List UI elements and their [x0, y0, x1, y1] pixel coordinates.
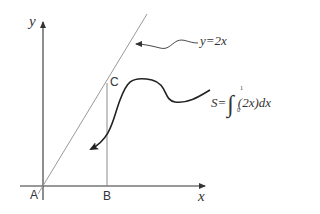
integral-integrand: (2x)dx — [238, 95, 271, 110]
point-b-label: B — [103, 190, 111, 202]
line-y-equals-2x — [38, 14, 147, 194]
integral-upper-limit: 1 — [240, 85, 243, 91]
point-c-label: C — [110, 76, 119, 88]
integral-lower-limit: 0 — [237, 107, 240, 113]
integral-sign: ∫ — [227, 91, 234, 117]
integral-lhs: S= — [211, 95, 226, 110]
y-axis-label: y — [29, 14, 36, 29]
line-equation-label: y=2x — [200, 34, 227, 47]
area-pointer-arrow — [91, 79, 210, 149]
x-axis-label: x — [198, 189, 205, 204]
area-integral-formula: S=∫10(2x)dx — [211, 86, 271, 113]
point-a-label: A — [30, 189, 38, 201]
line-label-pointer-arrow — [136, 40, 198, 48]
